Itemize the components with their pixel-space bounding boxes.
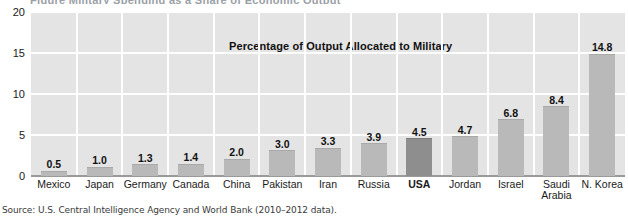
bar-value-label: 0.5	[47, 159, 62, 170]
bar-russia	[361, 143, 387, 176]
military-spending-bar-chart: Figure Military Spending as a Share of E…	[0, 0, 628, 221]
y-axis-tick-label: 15	[1, 48, 25, 59]
x-axis-label-canada: Canada	[168, 179, 214, 190]
bar-group: 2.0	[214, 12, 260, 176]
x-axis-label-russia: Russia	[351, 179, 397, 190]
bar-group: 6.8	[488, 12, 534, 176]
x-axis-label-jordan: Jordan	[442, 179, 488, 190]
bar-value-label: 8.4	[549, 95, 564, 106]
bar-group: 8.4	[534, 12, 580, 176]
y-axis-tick-label: 20	[1, 7, 25, 18]
x-axis-label-n-korea: N. Korea	[579, 179, 625, 190]
y-axis-tick-label: 0	[1, 171, 25, 182]
bars-container: 0.51.01.31.42.03.03.33.94.54.76.88.414.8	[31, 12, 625, 176]
bar-saudi-arabia	[543, 106, 569, 176]
x-axis-label-pakistan: Pakistan	[259, 179, 305, 190]
bar-group: 3.9	[351, 12, 397, 176]
bar-value-label: 4.5	[412, 127, 427, 138]
bar-value-label: 3.0	[275, 139, 290, 150]
bar-value-label: 1.0	[92, 155, 107, 166]
bar-group: 14.8	[579, 12, 625, 176]
bar-japan	[87, 167, 113, 176]
x-axis-label-saudi-arabia: SaudiArabia	[534, 179, 580, 201]
bar-group: 1.0	[77, 12, 123, 176]
bar-group: 1.3	[122, 12, 168, 176]
bar-value-label: 3.9	[366, 132, 381, 143]
bar-value-label: 2.0	[229, 147, 244, 158]
bar-value-label: 1.4	[184, 152, 199, 163]
bar-group: 4.5	[397, 12, 443, 176]
cropped-figure-caption: Figure Military Spending as a Share of E…	[30, 0, 590, 4]
bar-value-label: 4.7	[458, 125, 473, 136]
y-axis-tick-label: 10	[1, 89, 25, 100]
bar-group: 0.5	[31, 12, 77, 176]
source-note: Source: U.S. Central Intelligence Agency…	[2, 205, 337, 215]
bar-usa	[406, 138, 432, 176]
x-axis-label-iran: Iran	[305, 179, 351, 190]
x-axis-label-japan: Japan	[77, 179, 123, 190]
bar-israel	[498, 119, 524, 176]
bar-canada	[178, 164, 204, 176]
bar-value-label: 3.3	[321, 136, 336, 147]
bar-group: 3.0	[259, 12, 305, 176]
bar-value-label: 14.8	[592, 42, 612, 53]
bar-group: 3.3	[305, 12, 351, 176]
y-axis-tick-label: 5	[1, 130, 25, 141]
bar-value-label: 6.8	[503, 108, 518, 119]
bar-iran	[315, 148, 341, 176]
x-axis-labels: MexicoJapanGermanyCanadaChinaPakistanIra…	[31, 179, 625, 207]
x-axis-label-mexico: Mexico	[31, 179, 77, 190]
bar-mexico	[41, 171, 67, 176]
x-axis-label-china: China	[214, 179, 260, 190]
x-axis-label-israel: Israel	[488, 179, 534, 190]
bar-china	[224, 159, 250, 176]
bar-group: 1.4	[168, 12, 214, 176]
y-axis: 05101520	[0, 12, 30, 176]
bar-jordan	[452, 136, 478, 176]
bar-value-label: 1.3	[138, 153, 153, 164]
bar-germany	[132, 164, 158, 176]
x-axis-label-germany: Germany	[122, 179, 168, 190]
bar-group: 4.7	[442, 12, 488, 176]
bar-n-korea	[589, 54, 615, 176]
bar-pakistan	[269, 150, 295, 176]
x-axis-label-usa: USA	[397, 179, 443, 190]
